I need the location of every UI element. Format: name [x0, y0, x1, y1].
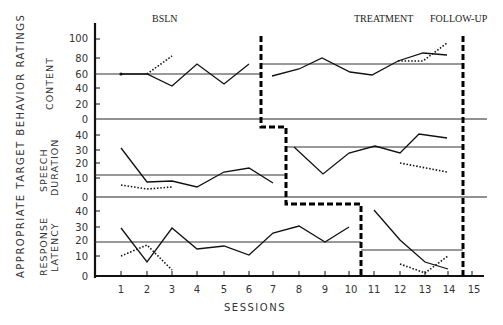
multiple-baseline-chart: BSLN TREATMENT FOLLOW-UP APPROPRIATE TAR…	[0, 0, 503, 325]
speech-panel	[95, 134, 463, 189]
svg-text:6: 6	[246, 284, 252, 295]
speech-treatment-dotted	[400, 163, 447, 172]
svg-text:30: 30	[75, 145, 88, 156]
svg-text:0: 0	[82, 192, 88, 203]
latency-panel	[95, 210, 463, 273]
latency-y-ticks: 40 30 20 10 0	[75, 206, 100, 282]
phase-label-treatment: TREATMENT	[354, 13, 413, 24]
latency-treatment-solid	[374, 210, 448, 269]
svg-text:13: 13	[419, 284, 432, 295]
svg-text:12: 12	[394, 284, 407, 295]
speech-baseline-solid	[121, 148, 273, 187]
svg-text:14: 14	[443, 284, 456, 295]
panel-title-latency-2: LATENCY	[49, 223, 60, 272]
content-baseline-dotted	[147, 56, 172, 74]
svg-text:20: 20	[75, 99, 88, 110]
svg-text:0: 0	[82, 114, 88, 125]
svg-text:40: 40	[75, 206, 88, 217]
phase-label-followup: FOLLOW-UP	[430, 13, 488, 24]
content-baseline-solid	[121, 64, 249, 86]
svg-text:11: 11	[368, 284, 381, 295]
svg-text:40: 40	[75, 130, 88, 141]
svg-text:2: 2	[144, 284, 150, 295]
svg-text:5: 5	[221, 284, 227, 295]
svg-text:7: 7	[270, 284, 276, 295]
y-axis-title: APPROPRIATE TARGET BEHAVIOR RATINGS	[15, 14, 26, 278]
svg-text:30: 30	[75, 222, 88, 233]
svg-text:0: 0	[82, 271, 88, 282]
speech-y-ticks: 40 30 20 10 0	[75, 130, 100, 203]
panel-title-speech-2: DURATION	[49, 139, 60, 196]
svg-text:3: 3	[169, 284, 175, 295]
svg-text:1: 1	[118, 284, 124, 295]
content-panel	[95, 43, 463, 86]
svg-text:80: 80	[75, 53, 88, 64]
x-axis-title: SESSIONS	[224, 302, 286, 313]
panel-title-speech-1: SPEECH	[38, 148, 49, 192]
svg-text:60: 60	[75, 69, 88, 80]
panel-title-content: CONTENT	[44, 57, 55, 110]
svg-text:20: 20	[75, 158, 88, 169]
svg-text:40: 40	[75, 83, 88, 94]
panel-title-latency-1: RESPONSE	[38, 217, 49, 276]
chart-figure: BSLN TREATMENT FOLLOW-UP APPROPRIATE TAR…	[0, 0, 503, 325]
phase-label-bsln: BSLN	[152, 13, 178, 24]
svg-text:15: 15	[468, 284, 481, 295]
svg-text:10: 10	[75, 173, 88, 184]
latency-baseline-dotted	[121, 245, 172, 270]
svg-text:8: 8	[296, 284, 302, 295]
svg-text:20: 20	[75, 235, 88, 246]
speech-baseline-dotted	[121, 185, 172, 189]
svg-text:100: 100	[69, 33, 88, 44]
x-axis-tick-labels: 1 2 3 4 5 6 7 8 9 10 11 12 13 14 15	[118, 284, 481, 295]
latency-baseline-solid	[121, 226, 349, 262]
svg-text:10: 10	[75, 251, 88, 262]
latency-treatment-dotted	[400, 256, 448, 273]
svg-text:9: 9	[322, 284, 328, 295]
svg-text:4: 4	[194, 284, 200, 295]
svg-text:10: 10	[345, 284, 358, 295]
